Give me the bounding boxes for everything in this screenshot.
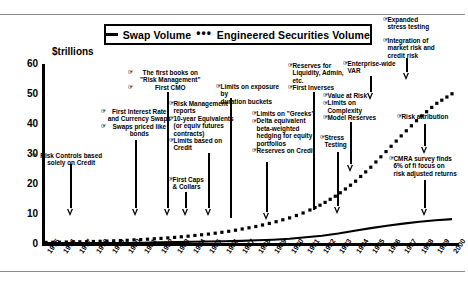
annotation-line: risk adjusted returns [389, 170, 461, 177]
series-dot [214, 232, 217, 235]
series-dot [132, 238, 135, 241]
annotation-line: reports [169, 107, 237, 114]
series-dot [324, 201, 327, 204]
annotation-line: ☞Risk attribution [397, 113, 453, 120]
series-dot [234, 229, 237, 232]
annotation-bullet-icon: ☞ [323, 114, 328, 121]
series-dot [220, 231, 223, 234]
annotation-line: stress testing [383, 23, 439, 30]
annotation-enterprise-wide-var: ☞Enterprise-wideVAR [343, 60, 399, 75]
annotation-line: ☞First Inverses [288, 84, 350, 91]
series-dot [200, 233, 203, 236]
annotation-line: 6% of fi focus on [389, 162, 461, 169]
annotation-line: ☞Limits on [323, 99, 383, 106]
annotation-line: Credit [169, 144, 237, 151]
series-dot [105, 240, 108, 243]
series-dot [207, 233, 210, 236]
series-dot [65, 240, 68, 243]
series-dot [227, 230, 230, 233]
annotation-line: Complexity [323, 107, 383, 114]
annotation-line: (or equiv futures [169, 122, 237, 129]
annotation-line: Liquidity, Admin, [288, 69, 350, 76]
series-dot [44, 241, 47, 244]
annotation-line: ☞First Interest Rate [101, 108, 173, 115]
annotation-risk-attribution: ☞Risk attribution [397, 113, 453, 120]
annotation-line: ☞Model Reserves [323, 114, 383, 121]
series-dot [288, 216, 291, 219]
series-dot [261, 223, 264, 226]
annotation-bullet-icon: ☞ [252, 147, 257, 154]
annotation-line: ☞Reserves on Credit [252, 147, 320, 154]
series-dot [58, 241, 61, 244]
annotation-cmra-survey: ☞CMRA survey finds6% of fi focus onrisk … [389, 155, 461, 177]
series-dot [281, 218, 284, 221]
annotation-risk-management-reports: ☞Risk Managementreports☞10-year Equivale… [169, 100, 237, 152]
annotation-line: ☞Expanded [383, 16, 439, 23]
series-dot [254, 225, 257, 228]
series-dot [450, 92, 453, 95]
series-dot [187, 235, 190, 238]
series-dot [112, 239, 115, 242]
series-dot [369, 166, 372, 169]
annotation-line: bonds [101, 130, 173, 137]
series-dot [395, 140, 398, 143]
annotation-line: ☞Integration of [383, 37, 439, 44]
annotation-tick-reserves-liquidity [313, 92, 315, 210]
series-dot [275, 220, 278, 223]
series-dot [180, 235, 183, 238]
series-dot [247, 226, 250, 229]
annotation-line: ☞Enterprise-wide [343, 60, 399, 67]
annotation-limits-on-greeks: ☞Limits on "Greeks"☞Delta equivalentbeta… [252, 110, 320, 154]
annotation-line: ☞Risk Controls based [32, 152, 106, 159]
annotation-line: contracts) [169, 130, 237, 137]
series-dot [344, 187, 347, 190]
annotation-line: credit risk [383, 52, 439, 59]
series-dot [349, 184, 352, 187]
annotation-bullet-icon: ☞ [216, 83, 221, 90]
series-dot [268, 222, 271, 225]
annotation-risk-controls-credit: ☞Risk Controls basedsolely on Credit [32, 152, 106, 167]
series-dot [390, 145, 393, 148]
series-dot [78, 240, 81, 243]
annotation-line: ☞The first books on [128, 69, 208, 76]
series-dot [410, 124, 413, 127]
series-dot [400, 134, 403, 137]
annotation-bullet-icon: ☞ [397, 113, 402, 120]
series-dot [99, 240, 102, 243]
annotation-line: ☞Stress [320, 134, 354, 141]
series-dot [440, 99, 443, 102]
annotation-expanded-stress-testing: ☞Expandedstress testing [383, 16, 439, 31]
series-dot [374, 160, 377, 163]
annotation-line: market risk and [383, 44, 439, 51]
series-dot [159, 237, 162, 240]
annotation-limits-exposure-duration: ☞Limits on exposure byduration buckets [216, 83, 288, 105]
annotation-line: VAR [343, 67, 399, 74]
series-dot [405, 129, 408, 132]
series-dot [302, 211, 305, 214]
series-dot [359, 175, 362, 178]
series-dot [85, 240, 88, 243]
series-dot [51, 241, 54, 244]
series-dot [329, 198, 332, 201]
series-dot [354, 180, 357, 183]
series-dot [379, 155, 382, 158]
series-dot [126, 239, 129, 242]
annotation-line: duration buckets [216, 98, 288, 105]
annotation-reserves-liquidity: ☞Reserves forLiquidity, Admin,etc.☞First… [288, 62, 350, 92]
series-dot [308, 208, 311, 211]
series-dot [435, 102, 438, 105]
series-dot [119, 239, 122, 242]
annotation-line: ☞Value at Risk [323, 92, 383, 99]
annotation-line: ☞10-year Equivalents [169, 115, 237, 122]
annotation-line: ☞Delta equivalent [252, 117, 320, 124]
series-dot [364, 170, 367, 173]
series-dot [295, 214, 298, 217]
series-dot [139, 238, 142, 241]
annotation-value-at-risk: ☞Value at Risk☞Limits onComplexity☞Model… [323, 92, 383, 122]
series-swap-volume [46, 219, 452, 243]
annotation-line: & Collars [168, 183, 214, 190]
series-dot [430, 106, 433, 109]
series-dot [92, 240, 95, 243]
annotation-line: ☞Reserves for [288, 62, 350, 69]
